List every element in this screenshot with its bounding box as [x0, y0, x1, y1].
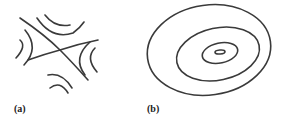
- contour-diagram: [0, 0, 282, 122]
- ellipse-contours: [141, 0, 276, 103]
- panel-label-a: (a): [14, 103, 26, 114]
- panel-label-b: (b): [147, 103, 159, 114]
- saddle-contours: [16, 15, 98, 93]
